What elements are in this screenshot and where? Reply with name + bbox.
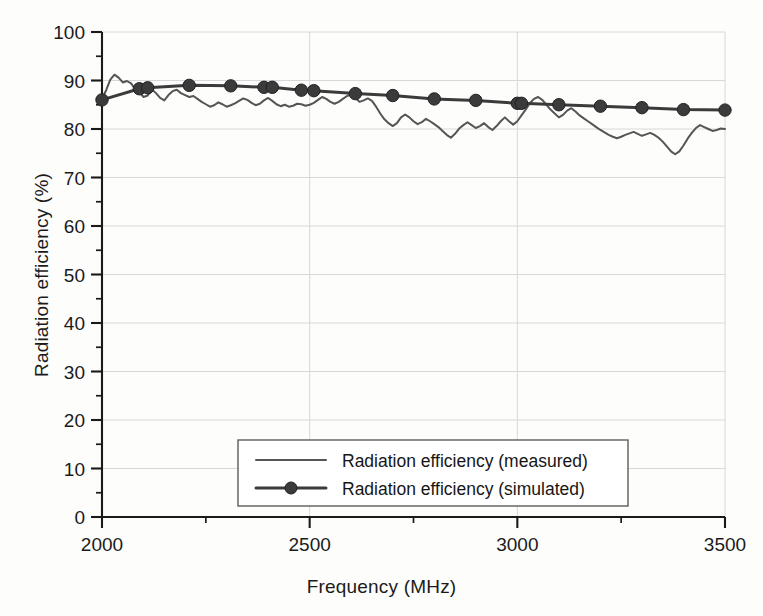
series-marker	[308, 84, 320, 96]
series-marker	[387, 89, 399, 101]
series-marker	[183, 79, 195, 91]
series-marker	[719, 104, 731, 116]
y-tick-label: 100	[53, 22, 85, 43]
x-axis-title: Frequency (MHz)	[0, 576, 763, 598]
series-marker	[594, 100, 606, 112]
data-series	[96, 75, 731, 155]
series-marker	[295, 84, 307, 96]
x-tick-label: 3000	[496, 534, 538, 555]
series-marker	[515, 97, 527, 109]
series-marker	[470, 94, 482, 106]
x-tick-label: 3500	[704, 534, 746, 555]
y-axis-title: Radiation efficiency (%)	[31, 173, 53, 377]
y-tick-label: 70	[64, 168, 85, 189]
y-tick-label: 0	[74, 507, 85, 528]
series-marker	[349, 87, 361, 99]
legend-swatch-marker-1	[285, 482, 297, 494]
x-tick-label: 2500	[289, 534, 331, 555]
figure-container: 01020304050607080901002000250030003500 R…	[0, 0, 763, 616]
series-marker	[428, 93, 440, 105]
chart-canvas: 01020304050607080901002000250030003500 R…	[0, 0, 763, 616]
legend-label-1: Radiation efficiency (simulated)	[342, 479, 585, 499]
series-marker	[266, 81, 278, 93]
x-tick-label: 2000	[81, 534, 123, 555]
y-tick-label: 40	[64, 313, 85, 334]
series-marker	[636, 101, 648, 113]
legend-label-0: Radiation efficiency (measured)	[342, 451, 588, 471]
y-axis-title-wrap: Radiation efficiency (%)	[31, 45, 57, 505]
y-tick-label: 30	[64, 362, 85, 383]
y-tick-label: 10	[64, 459, 85, 480]
y-tick-label: 90	[64, 71, 85, 92]
series-marker	[225, 80, 237, 92]
legend: Radiation efficiency (measured)Radiation…	[238, 440, 628, 506]
y-tick-label: 20	[64, 410, 85, 431]
series-marker	[677, 103, 689, 115]
y-tick-label: 80	[64, 119, 85, 140]
y-tick-label: 50	[64, 265, 85, 286]
series-marker	[141, 82, 153, 94]
y-tick-label: 60	[64, 216, 85, 237]
series-marker	[553, 99, 565, 111]
series-marker	[96, 94, 108, 106]
